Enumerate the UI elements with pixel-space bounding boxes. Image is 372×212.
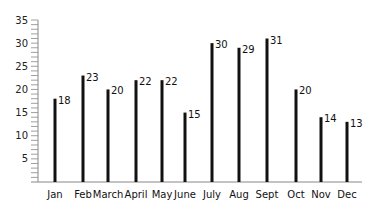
line-bar-chart: 5101520253035 JanFebMarchAprilMayJuneJul… bbox=[0, 0, 372, 212]
value-label: 23 bbox=[86, 72, 99, 83]
value-label: 31 bbox=[270, 35, 283, 46]
y-tick-label: 35 bbox=[15, 15, 28, 26]
y-tick-label: 30 bbox=[15, 38, 28, 49]
x-tick-label: Aug bbox=[229, 189, 249, 200]
value-label: 29 bbox=[242, 44, 255, 55]
y-axis: 5101520253035 bbox=[15, 15, 38, 183]
value-label: 30 bbox=[215, 39, 228, 50]
value-label: 22 bbox=[139, 76, 152, 87]
x-tick-label: Jan bbox=[46, 189, 62, 200]
y-tick-label: 15 bbox=[15, 107, 28, 118]
y-tick-label: 25 bbox=[15, 61, 28, 72]
x-tick-label: Feb bbox=[74, 189, 92, 200]
value-label: 13 bbox=[350, 118, 363, 129]
x-tick-label: June bbox=[173, 189, 196, 200]
y-tick-label: 20 bbox=[15, 84, 28, 95]
x-tick-label: Sept bbox=[256, 189, 279, 200]
value-label: 22 bbox=[165, 76, 178, 87]
value-label: 20 bbox=[299, 85, 312, 96]
y-tick-label: 10 bbox=[15, 130, 28, 141]
x-tick-label: July bbox=[202, 189, 221, 200]
x-tick-label: May bbox=[152, 189, 173, 200]
y-tick-label: 5 bbox=[22, 153, 28, 164]
x-tick-label: Dec bbox=[337, 189, 356, 200]
bars: 182320222215302931201413 bbox=[55, 35, 363, 182]
x-tick-label: Nov bbox=[311, 189, 331, 200]
value-label: 18 bbox=[58, 95, 71, 106]
value-label: 20 bbox=[111, 85, 124, 96]
x-axis: JanFebMarchAprilMayJuneJulyAugSeptOctNov… bbox=[31, 182, 362, 200]
value-label: 15 bbox=[188, 109, 201, 120]
x-tick-label: April bbox=[125, 189, 148, 200]
x-tick-label: March bbox=[93, 189, 123, 200]
value-label: 14 bbox=[324, 113, 337, 124]
x-tick-label: Oct bbox=[287, 189, 304, 200]
